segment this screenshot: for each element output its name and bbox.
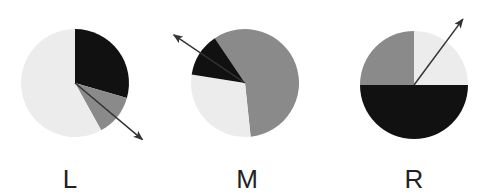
pie-chart-left [21,29,142,140]
pie-chart-middle [174,29,299,137]
label-middle: M [227,164,267,194]
pie-chart-right [360,19,468,139]
pie-segment-light [191,75,251,137]
pie-segment-gray [360,31,414,85]
pie-segment-light [414,31,468,85]
label-left: L [50,164,90,194]
label-right: R [394,164,434,194]
pie-segment-black [360,85,468,139]
